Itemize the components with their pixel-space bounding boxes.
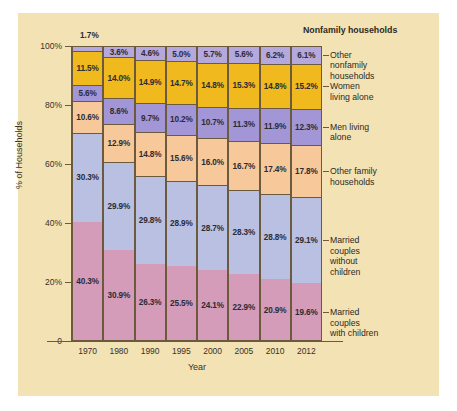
y-axis-tick (65, 341, 71, 342)
bar-segment[interactable]: 6.1% (292, 46, 321, 64)
y-axis-tick (65, 105, 71, 106)
legend-label-line: Married (330, 307, 378, 318)
bar-segment[interactable]: 14.8% (261, 64, 290, 108)
legend-label-line: couples (330, 318, 378, 329)
legend-item-men-living-alone[interactable]: Men livingalone (330, 122, 369, 143)
legend-item-married-couples-with-children[interactable]: Marriedcoupleswith children (330, 307, 378, 339)
bar-value-label: 10.2% (170, 115, 193, 124)
bar-segment[interactable]: 29.9% (104, 162, 133, 250)
bar-segment[interactable]: 12.3% (292, 109, 321, 145)
legend-item-married-couples-without-children[interactable]: Marriedcoupleswithoutchildren (330, 235, 360, 277)
y-axis-tick (65, 164, 71, 165)
bar-value-label: 30.3% (76, 173, 99, 182)
bar-value-label: 17.4% (264, 165, 287, 174)
bar-segment[interactable]: 4.6% (136, 46, 165, 60)
bar-segment[interactable]: 5.0% (167, 46, 196, 61)
bar-value-label: 4.6% (141, 49, 159, 58)
bar-value-label: 15.3% (233, 81, 256, 90)
bar-column-1995[interactable]: 25.5%28.9%15.6%10.2%14.7%5.0% (166, 46, 197, 341)
bar-value-label: 28.3% (233, 228, 256, 237)
bar-segment[interactable]: 17.8% (292, 145, 321, 197)
bar-segment[interactable]: 11.5% (73, 51, 102, 85)
legend-label-line: couples (330, 246, 360, 257)
bar-segment[interactable]: 14.9% (136, 60, 165, 104)
legend-connector (323, 86, 329, 87)
bar-segment[interactable]: 40.3% (73, 222, 102, 341)
bar-column-2000[interactable]: 24.1%28.7%16.0%10.7%14.8%5.7% (197, 46, 228, 341)
bar-column-1970[interactable]: 40.3%30.3%10.6%5.6%11.5% (72, 46, 103, 341)
bar-value-label: 5.7% (203, 50, 221, 59)
bar-segment[interactable]: 26.3% (136, 264, 165, 342)
bar-segment[interactable]: 28.3% (229, 190, 258, 273)
bar-value-label: 40.3% (76, 277, 99, 286)
bar-segment[interactable]: 6.2% (261, 46, 290, 64)
bar-segment[interactable]: 19.6% (292, 283, 321, 341)
bar-segment[interactable]: 14.8% (198, 63, 227, 107)
bar-segment[interactable]: 20.9% (261, 279, 290, 341)
bar-value-label: 9.7% (141, 114, 159, 123)
bar-segment[interactable]: 10.7% (198, 107, 227, 139)
bar-segment[interactable]: 8.6% (104, 98, 133, 123)
bar-segment[interactable]: 22.9% (229, 274, 258, 341)
x-axis-tick-label-2012: 2012 (286, 346, 326, 356)
legend-label-line: Married (330, 235, 360, 246)
legend-label-line: Other family (330, 166, 377, 177)
bar-value-label: 14.8% (201, 81, 224, 90)
bar-segment[interactable]: 28.9% (167, 181, 196, 266)
x-axis-line (47, 341, 343, 342)
bar-segment[interactable]: 14.0% (104, 57, 133, 98)
bar-segment[interactable]: 15.6% (167, 135, 196, 181)
bar-segment[interactable]: 10.6% (73, 101, 102, 132)
bar-value-label: 6.2% (266, 51, 284, 60)
bar-value-label: 29.1% (295, 236, 318, 245)
bar-column-2010[interactable]: 20.9%28.8%17.4%11.9%14.8%6.2% (260, 46, 291, 341)
bar-segment[interactable]: 16.7% (229, 141, 258, 190)
bar-segment[interactable]: 30.3% (73, 133, 102, 222)
bar-segment[interactable]: 9.7% (136, 103, 165, 132)
bar-value-label: 11.5% (76, 64, 98, 73)
bar-segment[interactable]: 30.9% (104, 250, 133, 341)
bar-segment[interactable]: 11.9% (261, 108, 290, 143)
bar-column-1980[interactable]: 30.9%29.9%12.9%8.6%14.0%3.6% (103, 46, 134, 341)
bar-segment[interactable]: 14.7% (167, 61, 196, 104)
bar-segment[interactable]: 3.6% (104, 46, 133, 57)
y-axis-tick-label: 20% (22, 277, 62, 287)
bar-segment[interactable]: 29.8% (136, 176, 165, 264)
bar-column-1990[interactable]: 26.3%29.8%14.8%9.7%14.9%4.6% (135, 46, 166, 341)
bar-segment[interactable]: 5.7% (198, 46, 227, 63)
bar-segment[interactable]: 29.1% (292, 197, 321, 283)
bar-segment[interactable]: 12.9% (104, 124, 133, 162)
bar-column-2012[interactable]: 19.6%29.1%17.8%12.3%15.2%6.1% (291, 46, 322, 341)
bar-value-label: 6.1% (297, 51, 315, 60)
bar-value-label: 10.7% (201, 118, 224, 127)
y-axis-tick-label: 60% (22, 159, 62, 169)
bar-value-label: 24.1% (201, 301, 224, 310)
bar-segment[interactable]: 17.4% (261, 143, 290, 194)
bar-segment[interactable]: 14.8% (136, 132, 165, 176)
bar-segment[interactable]: 16.0% (198, 138, 227, 185)
bar-segment[interactable]: 25.5% (167, 266, 196, 341)
bar-segment[interactable]: 5.6% (229, 46, 258, 63)
bar-segment[interactable]: 11.3% (229, 108, 258, 141)
legend-item-women-living-alone[interactable]: Womenliving alone (330, 81, 373, 102)
legend-item-other-family-households[interactable]: Other familyhouseholds (330, 166, 377, 187)
bar-segment[interactable]: 15.2% (292, 64, 321, 109)
legend-item-other-nonfamily-households[interactable]: Othernonfamilyhouseholds (330, 50, 374, 82)
bar-segment[interactable]: 28.8% (261, 194, 290, 279)
bar-value-label: 22.9% (233, 303, 256, 312)
bar-segment[interactable]: 24.1% (198, 270, 227, 341)
bar-segment[interactable]: 10.2% (167, 104, 196, 134)
bar-value-label: 28.8% (264, 233, 287, 242)
bar-segment[interactable]: 5.6% (73, 85, 102, 102)
legend-label-line: households (330, 71, 374, 82)
bar-segment[interactable] (73, 46, 102, 51)
bar-value-label: 3.6% (110, 48, 128, 57)
bar-value-label: 11.3% (233, 120, 255, 129)
bar-value-label: 17.8% (295, 167, 318, 176)
bar-segment[interactable]: 15.3% (229, 63, 258, 108)
bar-column-2005[interactable]: 22.9%28.3%16.7%11.3%15.3%5.6% (228, 46, 259, 341)
y-axis-tick-label: 100% (22, 41, 62, 51)
legend-connector (323, 312, 329, 313)
bar-segment[interactable]: 28.7% (198, 185, 227, 270)
bar-value-label: 29.9% (108, 202, 131, 211)
